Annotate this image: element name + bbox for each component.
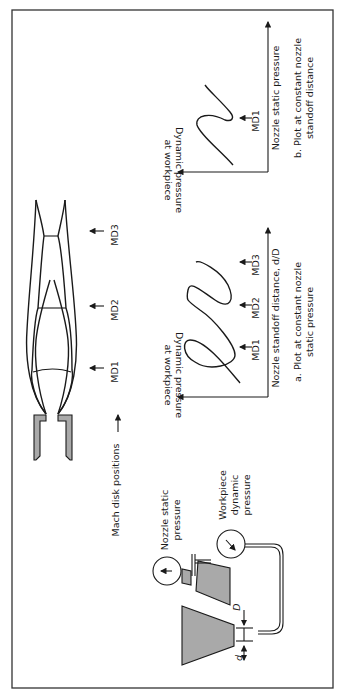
diagram-canvas: MD1 MD2 MD3 Mach disk positions D d No	[0, 0, 339, 695]
md3-label: MD3	[109, 224, 120, 246]
plot-a-xlabel: Nozzle standoff distance, d/D	[270, 248, 281, 387]
workpiece-label-2: dynamic	[229, 475, 240, 516]
nozzle-upper-small	[182, 569, 191, 585]
plot-b-caption-2: standoff distance	[304, 57, 315, 139]
mach-disk-positions-label: Mach disk positions	[110, 443, 121, 536]
md1-label: MD1	[109, 361, 120, 383]
workpiece-label-1: Workpiece	[217, 470, 228, 520]
mach-disk-markers: MD1 MD2 MD3	[90, 224, 120, 383]
plot-b-caption-1: b. Plot at constant nozzle	[292, 38, 303, 158]
plot-b-ylabel-1: Dynamic pressure	[174, 127, 185, 213]
plot-a-ylabel-1: Dynamic pressure	[174, 332, 185, 418]
jet-plume	[27, 200, 77, 460]
plot-b	[178, 22, 268, 172]
workpiece-dynamic-gauge-icon	[217, 530, 245, 558]
nozzle-lower	[182, 606, 234, 665]
plot-a-caption-1: a. Plot at constant nozzle	[292, 262, 303, 382]
nozzle-static-label-1: Nozzle static	[159, 490, 170, 550]
apparatus	[153, 530, 283, 665]
nozzle-upper	[196, 561, 230, 605]
md2-label: MD2	[109, 299, 120, 321]
plot-a-md1: MD1	[250, 339, 261, 361]
dim-d-label: d	[233, 654, 244, 661]
nozzle-static-label-2: pressure	[171, 499, 182, 540]
plot-b-xlabel: Nozzle static pressure	[270, 46, 281, 151]
plot-a-caption-2: static pressure	[304, 287, 315, 357]
plot-b-ylabel-2: at workpiece	[163, 139, 174, 200]
plot-a-ylabel-2: at workpiece	[163, 344, 174, 405]
dim-D-label: D	[231, 603, 242, 610]
plot-a-md2: MD2	[250, 297, 261, 319]
workpiece-label-3: pressure	[241, 474, 252, 515]
plot-a-md3: MD3	[250, 254, 261, 276]
plot-b-md1: MD1	[250, 110, 261, 132]
